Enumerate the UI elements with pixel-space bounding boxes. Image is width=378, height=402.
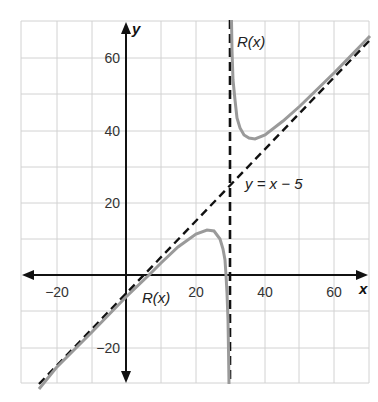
y-axis-up-arrow-icon [121,22,131,34]
rx-left-branch-curve [39,230,229,389]
x-axis-right-arrow-icon [356,270,368,280]
grid [21,21,369,383]
rx-upper-annotation: R(x) [237,33,265,50]
x-axis-label: x [358,280,368,297]
slant-asymptote-line [39,40,370,384]
rational-function-graph: −20 20 40 60 60 40 20 −20 x y R(x) y = x… [0,0,378,402]
y-axis-down-arrow-icon [121,371,131,383]
x-axis-left-arrow-icon [22,270,34,280]
rx-lower-annotation: R(x) [142,289,170,306]
x-tick-label: 40 [257,284,273,300]
x-tick-label: 60 [326,284,342,300]
y-tick-label: 40 [104,123,120,139]
y-tick-label: −20 [96,340,120,356]
x-axis [22,270,368,280]
slant-asymptote-annotation: y = x − 5 [244,175,303,192]
y-tick-label: 60 [104,50,120,66]
x-tick-label: 20 [188,284,204,300]
y-axis-label: y [131,20,141,37]
y-tick-label: 20 [104,195,120,211]
x-tick-label: −20 [45,284,69,300]
